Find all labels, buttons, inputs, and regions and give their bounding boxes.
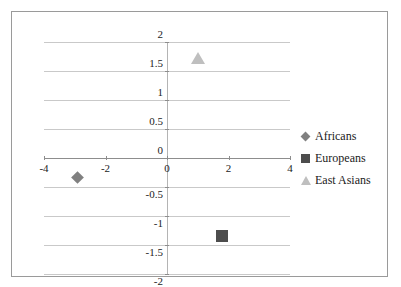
y-tick-0 <box>165 42 169 43</box>
x-axis-label-0: -4 <box>29 163 59 174</box>
legend-triangle-icon <box>299 174 312 187</box>
y-tick-2 <box>165 100 169 101</box>
y-axis-label-1: 1.5 <box>127 58 163 69</box>
x-tick-2 <box>167 156 168 160</box>
legend-square-icon <box>299 152 312 165</box>
y-tick-1 <box>165 71 169 72</box>
data-point-europeans-0 <box>216 230 228 242</box>
x-tick-1 <box>106 156 107 160</box>
x-tick-3 <box>229 156 230 160</box>
y-axis-label-6: -1 <box>127 218 163 229</box>
y-axis-label-2: 1 <box>127 87 163 98</box>
y-tick-6 <box>165 216 169 217</box>
y-axis-label-8: -2 <box>127 276 163 287</box>
y-axis-label-4: 0 <box>127 145 163 156</box>
legend-item-africans[interactable]: Africans <box>299 125 395 147</box>
legend-item-east-asians[interactable]: East Asians <box>299 169 395 191</box>
legend-diamond-icon <box>299 130 312 143</box>
y-axis-label-0: 2 <box>127 29 163 40</box>
legend-item-europeans[interactable]: Europeans <box>299 147 395 169</box>
x-tick-4 <box>290 156 291 160</box>
legend-label-1: Europeans <box>315 152 366 165</box>
legend-label-2: East Asians <box>315 174 371 187</box>
x-axis-label-3: 2 <box>214 163 244 174</box>
y-tick-5 <box>165 187 169 188</box>
x-axis-label-1: -2 <box>91 163 121 174</box>
data-point-east-asians-0 <box>191 52 205 64</box>
data-point-africans-0 <box>71 171 84 184</box>
y-axis-label-3: 0.5 <box>127 116 163 127</box>
scatter-chart-figure: 21.510.50-0.5-1-1.5-2 -4-2024 AfricansEu… <box>0 0 401 287</box>
y-axis-label-7: -1.5 <box>127 247 163 258</box>
legend-label-0: Africans <box>315 130 356 143</box>
chart-frame-border: 21.510.50-0.5-1-1.5-2 -4-2024 AfricansEu… <box>11 11 388 277</box>
x-axis-label-2: 0 <box>152 163 182 174</box>
x-tick-0 <box>44 156 45 160</box>
y-tick-8 <box>165 274 169 275</box>
chart-legend: AfricansEuropeansEast Asians <box>299 125 395 191</box>
y-tick-7 <box>165 245 169 246</box>
y-tick-3 <box>165 129 169 130</box>
plot-area <box>44 42 290 274</box>
y-axis-label-5: -0.5 <box>127 189 163 200</box>
